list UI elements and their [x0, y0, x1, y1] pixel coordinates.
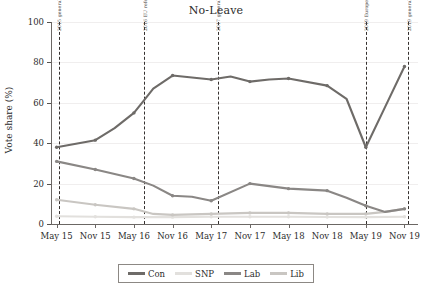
y-tick-label: 0 [39, 219, 44, 229]
data-point-lab [248, 182, 251, 185]
data-point-snp [132, 215, 135, 218]
x-tick-label: May 16 [118, 231, 150, 241]
plot-area [52, 22, 418, 224]
x-tick-label: May 19 [350, 231, 382, 241]
y-tick-label: 40 [33, 138, 44, 148]
y-tick-label: 80 [33, 57, 44, 67]
data-point-snp [325, 215, 328, 218]
legend-swatch-icon [175, 272, 192, 275]
data-point-lab [287, 187, 290, 190]
event-line-label: 2015 general election [57, 0, 62, 31]
x-tick-mark [173, 224, 174, 228]
series-line-snp [57, 216, 405, 217]
data-point-lab [364, 204, 367, 207]
data-point-con [132, 111, 135, 114]
x-tick-label: Nov 15 [80, 231, 111, 241]
data-point-snp [248, 215, 251, 218]
data-point-lib [325, 212, 328, 215]
data-point-con [364, 146, 367, 149]
legend-item-snp[interactable]: SNP [175, 269, 214, 279]
data-point-lib [132, 207, 135, 210]
data-point-con [171, 74, 174, 77]
data-point-lib [55, 198, 58, 201]
data-point-con [325, 84, 328, 87]
data-point-snp [364, 215, 367, 218]
x-tick-mark [404, 224, 405, 228]
event-line-label: 2016 EU referendum [143, 0, 148, 31]
series-line-lab [57, 161, 405, 212]
event-line-label: 2017 general election [216, 0, 221, 31]
y-axis-title-text: Vote share (%) [4, 87, 14, 154]
y-tick-mark [47, 224, 51, 225]
data-point-snp [287, 215, 290, 218]
x-tick-mark [95, 224, 96, 228]
legend-item-lab[interactable]: Lab [224, 269, 260, 279]
data-point-snp [403, 215, 406, 218]
legend-item-lib[interactable]: Lib [270, 269, 304, 279]
legend-label: Lab [244, 269, 260, 279]
x-tick-mark [250, 224, 251, 228]
chart-root: No-Leave Vote share (%) 020406080100 May… [0, 0, 432, 294]
y-axis-line [51, 22, 52, 224]
y-tick-label: 20 [33, 179, 44, 189]
data-point-con [287, 77, 290, 80]
y-tick-label: 100 [28, 17, 44, 27]
x-tick-label: Nov 19 [389, 231, 420, 241]
data-point-snp [94, 215, 97, 218]
data-point-lab [171, 194, 174, 197]
data-point-lib [287, 211, 290, 214]
data-point-lib [364, 212, 367, 215]
legend-label: SNP [195, 269, 214, 279]
y-tick-mark [47, 62, 51, 63]
legend-item-con[interactable]: Con [128, 269, 165, 279]
x-tick-label: Nov 16 [157, 231, 188, 241]
data-point-lib [94, 203, 97, 206]
data-point-lab [94, 168, 97, 171]
chart-legend: ConSNPLabLib [118, 264, 314, 283]
data-point-snp [55, 215, 58, 218]
event-line-label: 2019 general election [407, 0, 412, 31]
y-tick-mark [47, 22, 51, 23]
y-tick-mark [47, 103, 51, 104]
data-point-lab [210, 199, 213, 202]
series-lines [52, 22, 418, 224]
data-point-lab [55, 160, 58, 163]
y-tick-mark [47, 143, 51, 144]
x-tick-label: May 15 [41, 231, 73, 241]
data-point-lab [132, 177, 135, 180]
x-tick-label: Nov 17 [234, 231, 265, 241]
y-tick-mark [47, 184, 51, 185]
series-line-con [57, 66, 405, 147]
data-point-con [248, 80, 251, 83]
x-axis-line [51, 224, 418, 225]
legend-label: Lib [290, 269, 304, 279]
legend-swatch-icon [224, 272, 241, 275]
x-tick-label: May 17 [195, 231, 227, 241]
y-axis-title: Vote share (%) [2, 0, 16, 240]
data-point-con [403, 65, 406, 68]
data-point-con [210, 78, 213, 81]
x-tick-mark [366, 224, 367, 228]
data-point-lib [248, 211, 251, 214]
series-line-lib [57, 200, 405, 215]
data-point-lab [325, 189, 328, 192]
x-tick-mark [327, 224, 328, 228]
legend-swatch-icon [270, 272, 287, 275]
data-point-lab [403, 207, 406, 210]
data-point-lib [171, 213, 174, 216]
data-point-con [94, 138, 97, 141]
legend-swatch-icon [128, 272, 145, 275]
x-tick-mark [289, 224, 290, 228]
x-tick-mark [134, 224, 135, 228]
x-tick-mark [211, 224, 212, 228]
event-line-label: 2019 European Parliament election [364, 0, 369, 31]
legend-label: Con [148, 269, 165, 279]
x-tick-label: May 18 [272, 231, 304, 241]
x-tick-mark [57, 224, 58, 228]
x-tick-label: Nov 18 [312, 231, 343, 241]
y-tick-label: 60 [33, 98, 44, 108]
data-point-con [55, 146, 58, 149]
data-point-lib [210, 212, 213, 215]
